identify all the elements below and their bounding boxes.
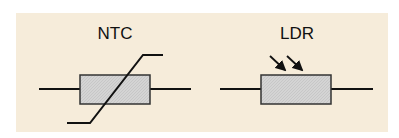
ldr-symbol: LDR bbox=[220, 24, 373, 104]
ldr-resistor-body bbox=[261, 75, 331, 104]
ldr-label: LDR bbox=[280, 24, 314, 43]
ntc-label: NTC bbox=[98, 24, 133, 43]
light-arrow-icon bbox=[270, 56, 285, 70]
diagram-canvas: NTC LDR bbox=[0, 0, 399, 138]
light-arrow-icon bbox=[287, 56, 302, 70]
ntc-symbol: NTC bbox=[39, 24, 191, 123]
